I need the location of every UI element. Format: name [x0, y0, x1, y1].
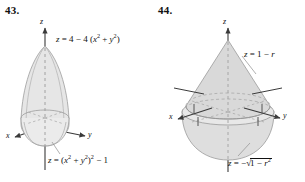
x-axis-label-44: x	[169, 113, 173, 121]
z-axis-label-43: z	[40, 18, 43, 26]
figure-43: 43. z x y	[0, 0, 152, 182]
equation-label-top-43: z = 4 − 4 (x2 + y2)	[56, 35, 120, 44]
equation-label-top-44: z = 1 − r	[244, 50, 275, 59]
figure-44-graphic	[152, 0, 305, 182]
equation-label-bottom-43: z = (x2 + y2)2 − 1	[48, 156, 108, 165]
y-axis-label-44: y	[283, 112, 287, 120]
figure-44: 44.	[152, 0, 305, 182]
equation-label-bottom-44: z = −√1 − r2	[228, 158, 272, 168]
y-axis-label-43: y	[88, 131, 92, 139]
z-axis-label-44: z	[223, 18, 226, 26]
x-axis-label-43: x	[6, 132, 10, 140]
